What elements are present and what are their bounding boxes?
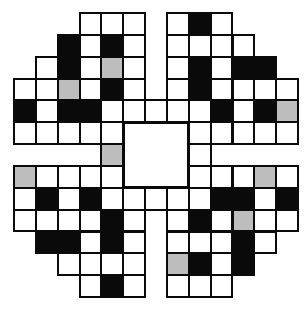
- white-cell-r9-c3[interactable]: [79, 209, 103, 233]
- white-cell-r8-c7[interactable]: [166, 187, 190, 211]
- white-cell-r10-c8[interactable]: [188, 231, 212, 255]
- gray-cell-r3-c2[interactable]: [57, 78, 81, 102]
- white-cell-r8-c8[interactable]: [188, 187, 212, 211]
- white-cell-r1-c9[interactable]: [210, 34, 234, 58]
- white-cell-r2-c1[interactable]: [35, 56, 59, 80]
- white-cell-r9-c1[interactable]: [35, 209, 59, 233]
- white-cell-r7-c2[interactable]: [57, 165, 81, 189]
- white-cell-r5-c11[interactable]: [253, 121, 277, 145]
- white-cell-r10-c7[interactable]: [166, 231, 190, 255]
- crossword-board: [0, 0, 308, 313]
- white-cell-r7-c3[interactable]: [79, 165, 103, 189]
- white-cell-r3-c1[interactable]: [35, 78, 59, 102]
- white-cell-r7-c9[interactable]: [210, 165, 234, 189]
- white-cell-r12-c5[interactable]: [122, 274, 146, 298]
- white-cell-r3-c9[interactable]: [210, 78, 234, 102]
- white-cell-r12-c3[interactable]: [79, 274, 103, 298]
- white-cell-r8-c6[interactable]: [144, 187, 168, 211]
- black-cell-r10-c4: [100, 231, 124, 255]
- white-cell-r8-c0[interactable]: [13, 187, 37, 211]
- white-cell-r1-c3[interactable]: [79, 34, 103, 58]
- white-cell-r9-c12[interactable]: [275, 209, 299, 233]
- white-cell-r3-c12[interactable]: [275, 78, 299, 102]
- white-cell-r0-c4[interactable]: [100, 12, 124, 36]
- white-cell-r5-c9[interactable]: [210, 121, 234, 145]
- gray-cell-r4-c12[interactable]: [275, 99, 299, 123]
- white-cell-r7-c10[interactable]: [232, 165, 256, 189]
- gray-cell-r7-c0[interactable]: [13, 165, 37, 189]
- black-cell-r4-c11: [253, 99, 277, 123]
- white-cell-r8-c2[interactable]: [57, 187, 81, 211]
- white-cell-r1-c5[interactable]: [122, 34, 146, 58]
- white-cell-r10-c5[interactable]: [122, 231, 146, 255]
- black-cell-r9-c4: [100, 209, 124, 233]
- gray-cell-r6-c4[interactable]: [100, 143, 124, 167]
- white-cell-r10-c11[interactable]: [253, 231, 277, 255]
- gray-cell-r7-c11[interactable]: [253, 165, 277, 189]
- white-cell-r3-c10[interactable]: [232, 78, 256, 102]
- white-cell-r4-c10[interactable]: [232, 99, 256, 123]
- white-cell-r10-c3[interactable]: [79, 231, 103, 255]
- white-cell-r11-c4[interactable]: [100, 252, 124, 276]
- white-cell-r1-c7[interactable]: [166, 34, 190, 58]
- white-cell-r7-c8[interactable]: [188, 165, 212, 189]
- white-cell-r9-c0[interactable]: [13, 209, 37, 233]
- white-cell-r3-c11[interactable]: [253, 78, 277, 102]
- white-cell-r8-c4[interactable]: [100, 187, 124, 211]
- white-cell-r11-c9[interactable]: [210, 252, 234, 276]
- white-cell-r4-c5[interactable]: [122, 99, 146, 123]
- white-cell-r4-c7[interactable]: [166, 99, 190, 123]
- white-cell-r3-c7[interactable]: [166, 78, 190, 102]
- gray-cell-r11-c7[interactable]: [166, 252, 190, 276]
- white-cell-r4-c8[interactable]: [188, 99, 212, 123]
- white-cell-r12-c9[interactable]: [210, 274, 234, 298]
- white-cell-r2-c5[interactable]: [122, 56, 146, 80]
- white-cell-r9-c7[interactable]: [166, 209, 190, 233]
- white-cell-r4-c1[interactable]: [35, 99, 59, 123]
- white-cell-r9-c5[interactable]: [122, 209, 146, 233]
- white-cell-r3-c0[interactable]: [13, 78, 37, 102]
- black-cell-r8-c12: [275, 187, 299, 211]
- white-cell-r11-c3[interactable]: [79, 252, 103, 276]
- white-cell-r6-c8[interactable]: [188, 143, 212, 167]
- white-cell-r3-c3[interactable]: [79, 78, 103, 102]
- white-cell-r10-c9[interactable]: [210, 231, 234, 255]
- white-cell-r0-c3[interactable]: [79, 12, 103, 36]
- black-cell-r2-c11: [253, 56, 277, 80]
- white-cell-r5-c8[interactable]: [188, 121, 212, 145]
- white-cell-r9-c9[interactable]: [210, 209, 234, 233]
- white-cell-r5-c12[interactable]: [275, 121, 299, 145]
- white-cell-r9-c2[interactable]: [57, 209, 81, 233]
- white-cell-r2-c7[interactable]: [166, 56, 190, 80]
- white-cell-r3-c5[interactable]: [122, 78, 146, 102]
- white-cell-r1-c10[interactable]: [232, 34, 256, 58]
- white-cell-r7-c4[interactable]: [100, 165, 124, 189]
- black-cell-r9-c8: [188, 209, 212, 233]
- white-cell-r12-c7[interactable]: [166, 274, 190, 298]
- gray-cell-r2-c4[interactable]: [100, 56, 124, 80]
- white-cell-r11-c5[interactable]: [122, 252, 146, 276]
- white-cell-r0-c9[interactable]: [210, 12, 234, 36]
- white-cell-r1-c8[interactable]: [188, 34, 212, 58]
- white-cell-r2-c3[interactable]: [79, 56, 103, 80]
- white-cell-r0-c7[interactable]: [166, 12, 190, 36]
- white-cell-r7-c12[interactable]: [275, 165, 299, 189]
- white-cell-r0-c5[interactable]: [122, 12, 146, 36]
- white-cell-r5-c0[interactable]: [13, 121, 37, 145]
- white-cell-r5-c4[interactable]: [100, 121, 124, 145]
- gray-cell-r9-c10[interactable]: [232, 209, 256, 233]
- white-cell-r9-c11[interactable]: [253, 209, 277, 233]
- white-cell-r12-c8[interactable]: [188, 274, 212, 298]
- white-cell-r5-c3[interactable]: [79, 121, 103, 145]
- white-cell-r11-c2[interactable]: [57, 252, 81, 276]
- white-cell-r5-c1[interactable]: [35, 121, 59, 145]
- white-cell-r5-c10[interactable]: [232, 121, 256, 145]
- white-cell-r4-c4[interactable]: [100, 99, 124, 123]
- white-cell-r8-c11[interactable]: [253, 187, 277, 211]
- black-cell-r0-c8: [188, 12, 212, 36]
- white-cell-r2-c9[interactable]: [210, 56, 234, 80]
- white-cell-r4-c6[interactable]: [144, 99, 168, 123]
- white-cell-r5-c2[interactable]: [57, 121, 81, 145]
- white-cell-r8-c5[interactable]: [122, 187, 146, 211]
- white-cell-r7-c1[interactable]: [35, 165, 59, 189]
